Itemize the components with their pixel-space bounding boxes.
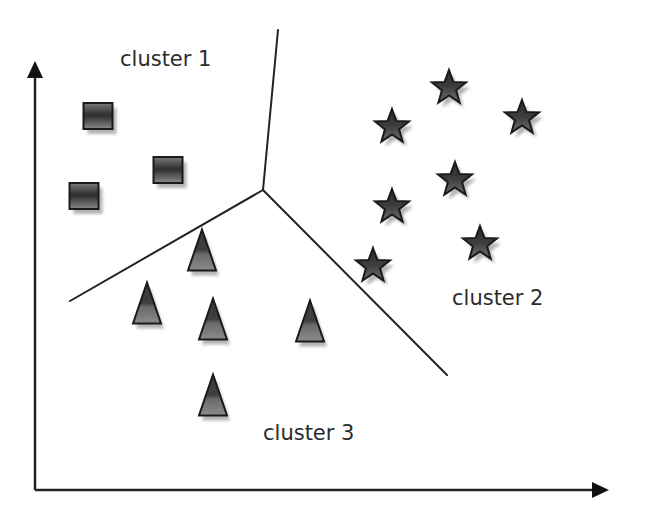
- square-marker-icon: [84, 103, 117, 134]
- star-marker-icon: [463, 226, 501, 264]
- cluster-3-points: [133, 230, 327, 421]
- boundary-lower-right: [263, 190, 447, 375]
- star-marker-icon: [375, 109, 413, 147]
- star-marker-icon: [432, 70, 470, 108]
- triangle-marker-icon: [296, 301, 327, 347]
- x-axis-arrow-icon: [592, 482, 609, 498]
- y-axis-arrow-icon: [27, 61, 43, 78]
- cluster-3-label: cluster 3: [263, 421, 354, 445]
- triangle-marker-icon: [188, 230, 219, 276]
- triangle-marker-icon: [199, 375, 230, 421]
- star-marker-icon: [438, 162, 476, 200]
- data-points: [70, 70, 544, 421]
- cluster-2-label: cluster 2: [452, 286, 543, 310]
- triangle-marker-icon: [133, 283, 164, 329]
- cluster-2-points: [356, 70, 543, 286]
- star-marker-icon: [505, 100, 543, 138]
- triangle-marker-icon: [199, 299, 230, 345]
- boundary-top: [263, 30, 278, 190]
- cluster-diagram: cluster 1 cluster 2 cluster 3: [0, 0, 645, 516]
- cluster-1-label: cluster 1: [120, 47, 211, 71]
- star-marker-icon: [356, 248, 394, 286]
- square-marker-icon: [154, 157, 187, 188]
- cluster-1-points: [70, 103, 187, 214]
- star-marker-icon: [375, 189, 413, 227]
- square-marker-icon: [70, 183, 103, 214]
